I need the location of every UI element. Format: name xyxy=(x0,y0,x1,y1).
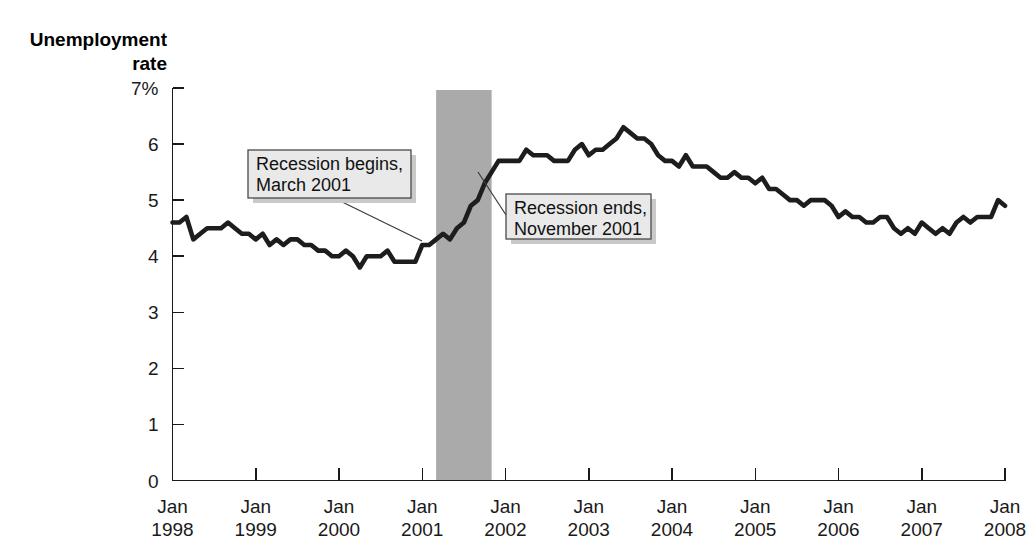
x-axis-tick-label-month: Jan xyxy=(823,496,854,517)
annotation-text-line1: Recession begins, xyxy=(256,154,403,174)
y-axis-title-line2: rate xyxy=(132,53,167,74)
y-axis-tick-label: 7% xyxy=(131,78,159,99)
x-axis-ticks xyxy=(173,468,1006,481)
x-axis-tick-label-year: 2006 xyxy=(817,519,859,540)
annotation-leader-line xyxy=(334,198,422,241)
y-axis-tick-label: 5 xyxy=(148,190,159,211)
x-axis-tick-label-month: Jan xyxy=(906,496,937,517)
x-axis-tick-label-month: Jan xyxy=(573,496,604,517)
x-axis-tick-label-month: Jan xyxy=(490,496,521,517)
x-axis-tick-label-year: 2008 xyxy=(984,519,1026,540)
y-axis-tick-label: 1 xyxy=(148,414,159,435)
x-axis-tick-label-year: 1998 xyxy=(151,519,193,540)
x-axis-tick-label-year: 2007 xyxy=(901,519,943,540)
y-axis-ticks xyxy=(173,88,184,424)
y-axis-tick-label: 6 xyxy=(148,134,159,155)
chart-canvas: 01234567% Jan1998Jan1999Jan2000Jan2001Ja… xyxy=(0,0,1029,559)
y-axis-tick-label: 4 xyxy=(148,246,159,267)
x-axis-tick-label-month: Jan xyxy=(240,496,271,517)
x-axis-tick-label-year: 2002 xyxy=(484,519,526,540)
annotation-text-line2: November 2001 xyxy=(514,219,642,239)
recession-shaded-band xyxy=(436,90,492,481)
annotation-text-line2: March 2001 xyxy=(256,175,351,195)
y-axis-tick-label: 0 xyxy=(148,471,159,492)
unemployment-rate-chart: 01234567% Jan1998Jan1999Jan2000Jan2001Ja… xyxy=(0,0,1029,559)
x-axis-tick-label-month: Jan xyxy=(324,496,355,517)
x-axis-tick-label-year: 2003 xyxy=(568,519,610,540)
x-axis-tick-label-month: Jan xyxy=(990,496,1021,517)
axis-lines xyxy=(173,88,1006,481)
x-axis-tick-label-year: 2000 xyxy=(318,519,360,540)
x-axis-tick-label-month: Jan xyxy=(740,496,771,517)
x-axis-tick-label-month: Jan xyxy=(157,496,188,517)
x-axis-tick-label-month: Jan xyxy=(657,496,688,517)
y-axis-tick-label: 2 xyxy=(148,358,159,379)
annotation-text-line1: Recession ends, xyxy=(514,198,647,218)
y-axis-tick-label: 3 xyxy=(148,302,159,323)
recession-shading-group xyxy=(436,90,492,481)
y-axis-title-line1: Unemployment xyxy=(30,29,168,50)
y-axis-tick-labels: 01234567% xyxy=(131,78,159,492)
x-axis-tick-label-year: 2004 xyxy=(651,519,694,540)
x-axis-tick-labels: Jan1998Jan1999Jan2000Jan2001Jan2002Jan20… xyxy=(151,496,1026,540)
axes-group xyxy=(173,88,1006,481)
x-axis-tick-label-year: 2005 xyxy=(734,519,776,540)
x-axis-tick-label-year: 1999 xyxy=(235,519,277,540)
x-axis-tick-label-year: 2001 xyxy=(401,519,443,540)
x-axis-tick-label-month: Jan xyxy=(407,496,438,517)
